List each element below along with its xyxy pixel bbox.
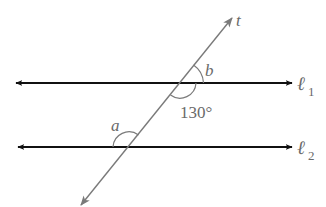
angle-arc-b — [194, 65, 204, 83]
angle-label-130: 130° — [180, 103, 212, 122]
line-l1-label: ℓ 1 — [297, 73, 315, 99]
svg-text:2: 2 — [308, 148, 315, 163]
angle-label-b: b — [205, 61, 214, 80]
angle-arc-130 — [171, 83, 197, 98]
diagram-canvas: t b 130° a ℓ 1 ℓ 2 — [0, 0, 326, 207]
svg-text:1: 1 — [308, 84, 315, 99]
svg-text:ℓ: ℓ — [297, 137, 305, 158]
transversal-label: t — [236, 11, 242, 30]
svg-text:ℓ: ℓ — [297, 73, 305, 94]
line-l2-label: ℓ 2 — [297, 137, 315, 163]
angle-label-a: a — [111, 116, 120, 135]
